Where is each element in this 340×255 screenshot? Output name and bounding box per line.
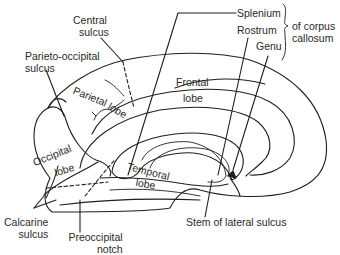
label-genu: Genu bbox=[256, 40, 282, 52]
splenium-leader bbox=[128, 13, 236, 175]
label-of-corpus-callosum: of corpus callosum bbox=[292, 20, 335, 44]
lateral-sulcus-leader bbox=[205, 180, 212, 217]
label-stem-of-lateral-sulcus: Stem of lateral sulcus bbox=[186, 216, 286, 228]
label-calcarine-sulcus: Calcarine sulcus bbox=[4, 216, 48, 240]
label-preoccipital-notch: Preoccipital notch bbox=[68, 231, 123, 255]
parietal-sulcus bbox=[105, 80, 124, 96]
corpus-callosum-brace bbox=[282, 4, 288, 60]
lamina-terminalis bbox=[230, 178, 240, 196]
central-sulcus-leader bbox=[101, 38, 123, 62]
preoccipital-dashed-line-2 bbox=[46, 182, 108, 188]
temporal-lobe-lower bbox=[60, 199, 200, 205]
subparietal-branch bbox=[92, 112, 96, 120]
rostrum-leader bbox=[218, 38, 248, 175]
brain-medial-surface-diagram bbox=[0, 0, 340, 255]
label-frontal-lobe: lobe bbox=[183, 92, 203, 104]
label-parieto-occipital-sulcus: Parieto-occipital sulcus bbox=[25, 50, 100, 74]
label-splenium: Splenium bbox=[237, 7, 281, 19]
label-rostrum: Rostrum bbox=[237, 24, 277, 36]
parieto-occipital-edge bbox=[48, 99, 66, 108]
label-frontal: Frontal bbox=[176, 76, 209, 88]
label-central-sulcus: Central sulcus bbox=[73, 14, 109, 38]
